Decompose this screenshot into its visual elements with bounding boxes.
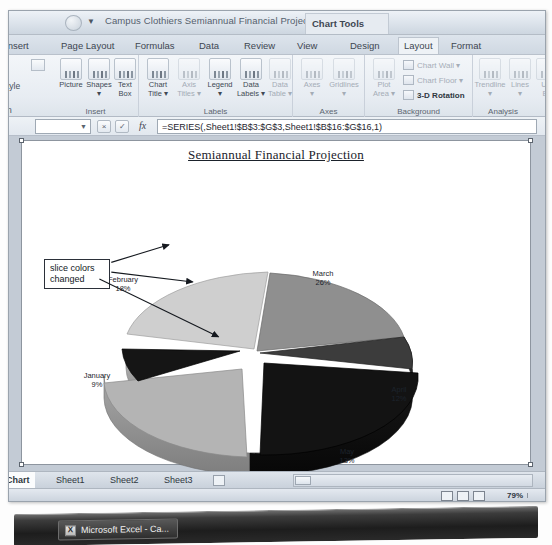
ribbon-tab-data[interactable]: Data — [195, 38, 223, 53]
page-break-preview-button[interactable] — [473, 491, 485, 501]
chart-tools-context-tab: Chart Tools — [305, 13, 389, 34]
ribbon: tyle n Picture Shapes ▾ Text Box — [9, 55, 545, 117]
legend-icon — [209, 58, 231, 80]
text-box-button[interactable]: Text Box — [108, 58, 142, 98]
ribbon-tab-formulas[interactable]: Formulas — [131, 38, 179, 53]
ribbon-tab-layout[interactable]: Layout — [398, 37, 439, 54]
taskbar-item-excel[interactable]: Microsoft Excel - Ca... — [58, 519, 178, 541]
ribbon-group-label-axes: Axes — [293, 107, 364, 116]
pie-slice-june — [104, 369, 247, 457]
three-d-rotation-icon — [403, 90, 414, 100]
ribbon-group-background: Plot Area ▾ Chart Wall ▾ Chart Floor ▾ 3… — [365, 55, 473, 117]
chart-title-button[interactable]: Chart Title ▾ — [141, 58, 175, 98]
chart-tools-label: Chart Tools — [312, 18, 364, 29]
insert-worksheet-icon[interactable] — [213, 475, 225, 486]
data-label-may: May 13% — [322, 447, 372, 465]
taskbar-item-label: Microsoft Excel - Ca... — [81, 524, 169, 535]
plot-area-button[interactable]: Plot Area ▾ — [367, 58, 401, 98]
chart-floor-button[interactable]: Chart Floor ▾ — [403, 75, 463, 85]
insert-function-icon[interactable]: fx — [139, 120, 146, 131]
gridlines-icon — [333, 58, 355, 80]
up-down-bars-icon — [536, 58, 546, 80]
quick-access-toolbar-caret-icon[interactable]: ▼ — [87, 17, 95, 26]
shapes-icon — [88, 58, 110, 80]
excel-window: ▼ Campus Clothiers Semiannual Financial … — [8, 10, 546, 502]
name-box[interactable]: ▼ — [35, 119, 91, 134]
sheet-tab-sheet2[interactable]: Sheet2 — [105, 474, 144, 486]
horizontal-scrollbar[interactable] — [293, 474, 533, 487]
name-box-caret-icon[interactable]: ▼ — [80, 123, 87, 130]
trendline-icon — [479, 58, 501, 80]
chart-grip-tr[interactable] — [528, 138, 533, 143]
ribbon-tab-format[interactable]: Format — [447, 38, 485, 53]
trendline-button[interactable]: Trendline ▾ — [473, 58, 507, 98]
chart-grip-bl[interactable] — [19, 462, 24, 467]
title-bar: ▼ Campus Clothiers Semiannual Financial … — [9, 11, 545, 35]
data-table-icon — [269, 58, 291, 80]
sheet-tab-chart[interactable]: Chart — [8, 472, 35, 489]
data-label-april: April 12% — [374, 385, 424, 403]
enter-formula-button[interactable]: ✓ — [115, 120, 129, 133]
ribbon-group-label-labels: Labels — [139, 107, 292, 116]
pie-chart[interactable]: February 18% March 26% April 12% May 13% — [82, 201, 432, 491]
chart-grip-br[interactable] — [528, 462, 533, 467]
axis-titles-button[interactable]: Axis Titles ▾ — [172, 58, 206, 98]
annotation-callout: slice colors changed — [44, 259, 110, 289]
ribbon-tab-page-layout[interactable]: Page Layout — [57, 38, 118, 53]
horizontal-scroll-thumb[interactable] — [295, 476, 311, 485]
three-d-rotation-button[interactable]: 3-D Rotation — [403, 90, 465, 100]
gridlines-button[interactable]: Gridlines ▾ — [327, 58, 361, 98]
page-layout-view-button[interactable] — [457, 491, 469, 501]
chart-canvas[interactable]: Semiannual Financial Projection — [21, 140, 531, 465]
legend-button[interactable]: Legend ▾ — [203, 58, 237, 98]
data-table-button[interactable]: Data Table ▾ — [263, 58, 297, 98]
ribbon-group-insert: Picture Shapes ▾ Text Box Insert — [53, 55, 139, 117]
styles-group-stub-footer: n — [8, 105, 12, 115]
lines-icon — [509, 58, 531, 80]
ribbon-tab-design[interactable]: Design — [346, 38, 384, 53]
chart-wall-icon — [403, 60, 414, 70]
office-button-icon[interactable] — [65, 15, 82, 31]
pie-top-faces — [104, 272, 418, 457]
plot-area-icon — [373, 58, 395, 80]
formula-text: =SERIES(,Sheet1!$B$3:$G$3,Sheet1!$B$16:$… — [162, 122, 382, 132]
data-label-january: January 9% — [70, 371, 124, 389]
chart-grip-tl[interactable] — [19, 138, 24, 143]
ribbon-tab-review[interactable]: Review — [240, 38, 279, 53]
ribbon-group-label-insert: Insert — [53, 107, 138, 116]
formula-input[interactable]: =SERIES(,Sheet1!$B$3:$G$3,Sheet1!$B$16:$… — [157, 119, 537, 134]
status-bar: 79% — [9, 488, 545, 501]
pie-slice-may — [260, 363, 418, 455]
styles-group-stub-label: tyle — [8, 81, 20, 91]
excel-icon — [65, 525, 76, 536]
picture-icon — [60, 58, 82, 80]
ribbon-tab-view[interactable]: View — [293, 38, 321, 53]
sheet-tab-sheet3[interactable]: Sheet3 — [159, 474, 198, 486]
chart-sheet-area: Semiannual Financial Projection — [9, 136, 545, 471]
formula-bar: ▼ × ✓ fx =SERIES(,Sheet1!$B$3:$G$3,Sheet… — [9, 117, 545, 136]
axes-button[interactable]: Axes ▾ — [295, 58, 329, 98]
zoom-level[interactable]: 79% — [507, 491, 523, 500]
ribbon-group-label-analysis: Analysis — [467, 107, 539, 116]
pie-chart-svg — [82, 201, 432, 491]
up-down-bars-button[interactable]: Up/ Ba — [530, 58, 546, 98]
ribbon-tab-strip: Insert Page Layout Formulas Data Review … — [9, 35, 545, 55]
text-box-icon — [114, 58, 136, 80]
chart-wall-button[interactable]: Chart Wall ▾ — [403, 60, 460, 70]
cancel-formula-button[interactable]: × — [97, 120, 111, 133]
annotation-line-1: slice colors — [50, 263, 104, 274]
chart-floor-icon — [403, 75, 414, 85]
sheet-tab-bar: Chart Sheet1 Sheet2 Sheet3 — [9, 471, 545, 488]
ribbon-group-label-background: Background — [365, 107, 472, 116]
zoom-slider[interactable] — [527, 493, 541, 498]
style-dropdown-button[interactable] — [31, 59, 45, 71]
axis-titles-icon — [178, 58, 200, 80]
ribbon-tab-insert[interactable]: Insert — [8, 38, 33, 53]
ribbon-group-axes: Axes ▾ Gridlines ▾ Axes — [293, 55, 365, 117]
annotation-line-2: changed — [50, 274, 104, 285]
chart-title-text[interactable]: Semiannual Financial Projection — [22, 147, 530, 163]
chart-title-icon — [147, 58, 169, 80]
normal-view-button[interactable] — [441, 491, 453, 501]
screenshot-root: ▼ Campus Clothiers Semiannual Financial … — [0, 0, 552, 545]
sheet-tab-sheet1[interactable]: Sheet1 — [51, 474, 90, 486]
